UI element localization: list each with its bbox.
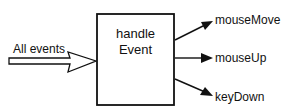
handler-label-line1: handle: [97, 26, 174, 41]
output-label-mousemove: mouseMove: [215, 13, 280, 27]
output-label-mouseup: mouseUp: [215, 51, 266, 65]
arrowhead-mousemove-icon: [201, 21, 213, 30]
handler-label-line2: Event: [97, 42, 174, 57]
output-label-keydown: keyDown: [215, 90, 264, 104]
arrow-mousemove: [175, 25, 205, 40]
arrowhead-keydown-icon: [200, 87, 213, 96]
input-label: All events: [13, 42, 65, 56]
arrowhead-mouseup-icon: [201, 53, 213, 63]
arrow-keydown: [175, 79, 205, 92]
